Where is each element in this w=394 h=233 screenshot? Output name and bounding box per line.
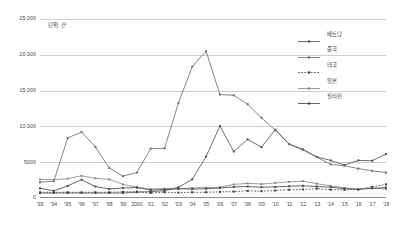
data-point-marker — [302, 149, 304, 151]
data-point-marker — [357, 168, 359, 170]
series-line — [40, 126, 386, 193]
data-point-marker — [247, 103, 249, 105]
data-point-marker — [67, 178, 69, 180]
legend-label: 베트남 — [327, 32, 342, 37]
legend-item-1[interactable]: 베트남 — [298, 31, 342, 38]
data-point-marker — [260, 186, 262, 188]
x-axis-tick-label: '05 — [203, 202, 210, 207]
x-axis-tick-label: '94 — [51, 202, 58, 207]
legend-item-4[interactable]: 일본 — [298, 78, 342, 85]
data-point-marker — [385, 172, 387, 174]
data-point-marker — [122, 183, 124, 185]
x-axis-tick-label: '18 — [383, 202, 390, 207]
series-line — [40, 176, 386, 189]
x-axis-tick-label: '14 — [327, 202, 334, 207]
data-point-marker — [94, 186, 96, 188]
data-point-marker — [122, 187, 124, 189]
x-axis-tick-label: '02 — [161, 202, 168, 207]
x-axis-tick-label: '12 — [300, 202, 307, 207]
y-axis-tick-label: 10,000 — [0, 124, 36, 129]
data-point-marker — [191, 66, 193, 68]
data-point-marker — [274, 129, 276, 131]
legend-swatch-icon — [298, 31, 320, 38]
data-point-marker — [274, 182, 276, 184]
legend-item-3[interactable]: 태국 — [298, 62, 342, 69]
data-point-marker — [136, 172, 138, 174]
data-point-marker — [67, 137, 69, 139]
legend-swatch-icon — [298, 78, 320, 85]
data-point-marker — [191, 178, 193, 180]
data-point-marker — [108, 188, 110, 190]
data-point-marker — [274, 186, 276, 188]
legend-item-2[interactable]: 중국 — [298, 47, 342, 54]
x-axis-tick-label: '15 — [341, 202, 348, 207]
data-point-marker — [94, 191, 96, 193]
data-point-marker — [164, 147, 166, 149]
data-point-marker — [288, 189, 290, 191]
x-axis-tick-label: '99 — [120, 202, 127, 207]
data-point-marker — [357, 188, 359, 190]
data-point-marker — [205, 50, 207, 52]
line-chart: 단위: 건 베트남중국태국일본필리핀 0500010,00015,00020,0… — [0, 0, 394, 233]
data-point-marker — [108, 191, 110, 193]
data-point-marker — [330, 189, 332, 191]
data-point-marker — [219, 125, 221, 127]
data-point-marker — [316, 156, 318, 158]
data-point-marker — [39, 191, 41, 193]
data-point-marker — [219, 187, 221, 189]
data-point-marker — [39, 187, 41, 189]
legend-swatch-icon — [298, 93, 320, 100]
x-axis-tick-label: '97 — [92, 202, 99, 207]
data-point-marker — [371, 170, 373, 172]
data-point-marker — [233, 186, 235, 188]
data-point-marker — [136, 191, 138, 193]
data-point-marker — [330, 186, 332, 188]
y-axis-tick-label: 15,000 — [0, 88, 36, 93]
data-point-marker — [205, 191, 207, 193]
y-axis-tick-label: 25,000 — [0, 16, 36, 21]
data-point-marker — [67, 185, 69, 187]
data-point-marker — [122, 191, 124, 193]
data-point-marker — [316, 186, 318, 188]
data-point-marker — [247, 182, 249, 184]
legend-swatch-icon — [298, 62, 320, 69]
data-point-marker — [150, 192, 152, 194]
data-point-marker — [288, 185, 290, 187]
data-point-marker — [371, 160, 373, 162]
data-point-marker — [233, 183, 235, 185]
x-axis-tick-label: '08 — [244, 202, 251, 207]
x-axis-tick-label: '95 — [64, 202, 71, 207]
x-axis-tick-label: '16 — [355, 202, 362, 207]
data-point-marker — [177, 188, 179, 190]
data-point-marker — [247, 190, 249, 192]
data-point-marker — [343, 165, 345, 167]
data-point-marker — [191, 188, 193, 190]
x-axis-tick-label: '11 — [286, 202, 292, 207]
data-point-marker — [164, 188, 166, 190]
data-point-marker — [302, 188, 304, 190]
data-point-marker — [205, 155, 207, 157]
data-point-marker — [164, 191, 166, 193]
legend-label: 일본 — [327, 79, 337, 84]
data-point-marker — [81, 179, 83, 181]
data-point-marker — [108, 178, 110, 180]
data-point-marker — [385, 183, 387, 185]
x-axis-tick-label: '01 — [147, 202, 154, 207]
x-axis-tick-label: 2000 — [131, 202, 142, 207]
legend-label: 중국 — [327, 47, 337, 52]
legend-item-5[interactable]: 필리핀 — [298, 93, 342, 100]
series-line — [40, 180, 386, 191]
data-point-marker — [316, 188, 318, 190]
data-point-marker — [330, 159, 332, 161]
data-point-marker — [274, 189, 276, 191]
x-axis-tick-label: '93 — [37, 202, 44, 207]
x-axis-tick-label: '07 — [230, 202, 237, 207]
x-axis-tick-label: '96 — [78, 202, 85, 207]
x-axis-tick-label: '98 — [106, 202, 113, 207]
y-axis-tick-label: 0 — [0, 195, 36, 200]
data-point-marker — [219, 94, 221, 96]
data-point-marker — [53, 179, 55, 181]
x-axis-tick-label: '04 — [189, 202, 196, 207]
legend-label: 필리핀 — [327, 94, 342, 99]
data-point-marker — [302, 180, 304, 182]
